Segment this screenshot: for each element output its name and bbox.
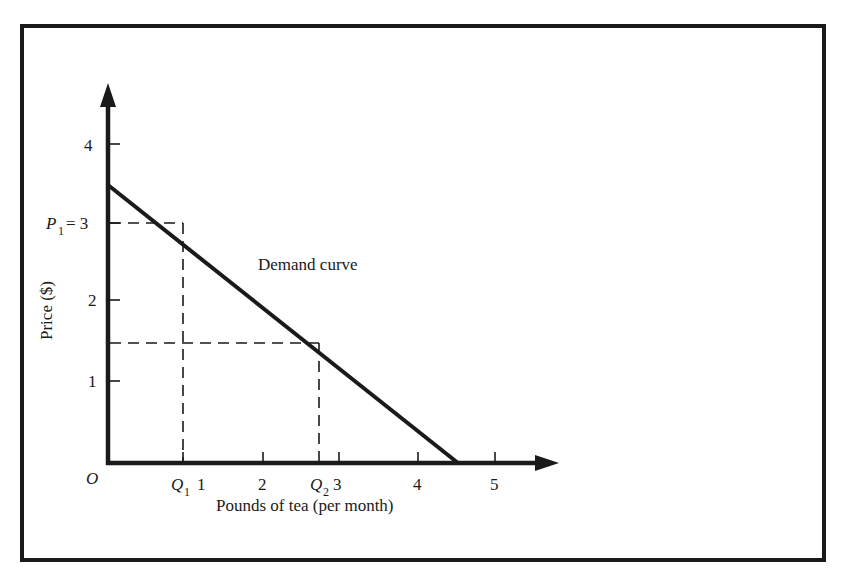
x-tick-label-2: 2	[258, 475, 267, 494]
p1-label-main: P	[45, 214, 56, 233]
q1-label-sub: 1	[184, 485, 190, 499]
y-axis-title: Price ($)	[37, 281, 56, 340]
y-tick-label-2: 2	[88, 291, 97, 310]
y-axis-arrow-icon	[100, 83, 116, 107]
axes	[100, 83, 559, 471]
x-tick-label-5: 5	[490, 475, 499, 494]
x-axis-title: Pounds of tea (per month)	[216, 496, 394, 515]
q2-label-main: Q	[310, 475, 322, 494]
x-tick-label-3: 3	[333, 475, 342, 494]
p1-label: P 1 = 3	[45, 214, 88, 238]
x-tick-label-4: 4	[413, 475, 422, 494]
demand-curve-line	[108, 185, 458, 463]
q1-label-main: Q	[171, 475, 183, 494]
y-tick-label-1: 1	[88, 372, 97, 391]
origin-label: O	[86, 469, 98, 488]
x-axis-arrow-icon	[535, 455, 559, 471]
q1-label: Q 1	[171, 475, 190, 499]
y-tick-label-4: 4	[84, 136, 93, 155]
demand-curve-label: Demand curve	[258, 255, 358, 274]
p1-label-sub: 1	[58, 224, 64, 238]
x-tick-label-1: 1	[197, 475, 206, 494]
demand-chart: Demand curve 4 2 1 P 1 = 3 Price ($) O Q…	[0, 0, 842, 577]
p1-label-eq: = 3	[66, 214, 88, 233]
